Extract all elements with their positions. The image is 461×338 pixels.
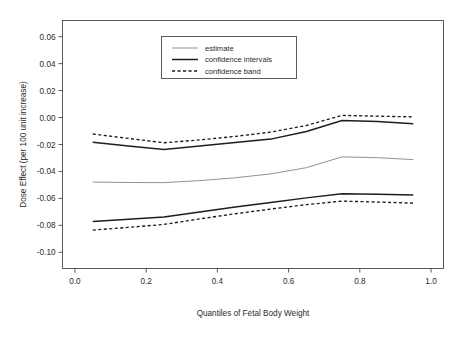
y-axis-title: Dose Effect (per 100 unit increase) bbox=[19, 81, 28, 208]
x-tick-label: 0.0 bbox=[69, 277, 81, 286]
x-axis-title: Quantiles of Fetal Body Weight bbox=[197, 309, 310, 318]
chart-legend: estimateconfidence intervalsconfidence b… bbox=[162, 37, 297, 79]
y-tick-label: -0.04 bbox=[37, 167, 56, 176]
x-tick-label: 0.2 bbox=[140, 277, 152, 286]
y-tick-label: -0.06 bbox=[37, 194, 56, 203]
line-chart: 0.060.040.020.00-0.02-0.04-0.06-0.08-0.1… bbox=[0, 0, 461, 338]
y-tick-label: 0.00 bbox=[40, 114, 56, 123]
x-tick-label: 0.8 bbox=[354, 277, 366, 286]
chart-figure: 0.060.040.020.00-0.02-0.04-0.06-0.08-0.1… bbox=[0, 0, 461, 338]
legend-label: confidence intervals bbox=[205, 55, 272, 64]
y-tick-label: -0.10 bbox=[37, 248, 56, 257]
legend-label: confidence band bbox=[205, 67, 261, 76]
legend-label: estimate bbox=[205, 44, 234, 53]
y-tick-label: -0.02 bbox=[37, 141, 56, 150]
x-tick-label: 0.4 bbox=[212, 277, 224, 286]
y-tick-label: -0.08 bbox=[37, 221, 56, 230]
y-tick-label: 0.06 bbox=[40, 33, 56, 42]
y-tick-label: 0.02 bbox=[40, 87, 56, 96]
x-tick-label: 0.6 bbox=[283, 277, 295, 286]
x-tick-label: 1.0 bbox=[425, 277, 437, 286]
y-tick-label: 0.04 bbox=[40, 60, 56, 69]
